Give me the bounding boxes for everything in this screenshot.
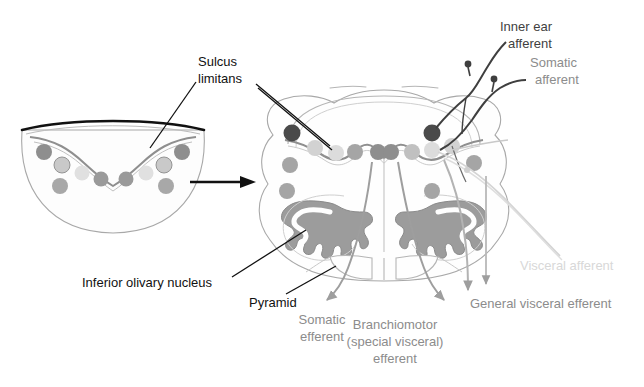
label-branchiomotor-line3: efferent [373,351,417,366]
label-inferior-olivary-nucleus: Inferior olivary nucleus [82,275,213,290]
figure-root: Sulcus limitans Inner ear afferent Somat… [0,0,644,387]
dot-ring-right [156,157,172,173]
label-inner-ear-afferent-line2: afferent [508,36,552,51]
dot-ring-left [54,157,70,173]
label-pyramid: Pyramid [249,295,297,310]
dot-dark-outer-left [36,144,52,160]
inner-ear-ganglion-cell [465,61,472,68]
dot-visceral-aff-right [424,142,440,158]
brainstem-diagram: Sulcus limitans Inner ear afferent Somat… [0,0,644,387]
label-somatic-efferent-line1: Somatic [299,312,346,327]
label-somatic-afferent-line1: Somatic [530,55,577,70]
label-visceral-afferent: Visceral afferent [520,258,614,273]
dot-mid-right-low [158,178,174,194]
dot-gve-right [404,144,420,160]
dot-somatic-aff-left [307,140,323,156]
somatic-afferent-ganglion-cell [491,76,498,83]
label-general-visceral-efferent: General visceral efferent [470,296,612,311]
visceral-afferent-ganglion-cell [464,167,470,173]
dot-somatic-eff-right [424,183,440,199]
label-somatic-efferent-line2: efferent [300,329,344,344]
label-sulcus-limitans-line1: Sulcus [198,54,238,69]
dot-somatic-eff-left [279,183,295,199]
label-branchiomotor-line2: (special visceral) [347,334,444,349]
label-branchiomotor-line1: Branchiomotor [353,317,438,332]
dot-vlight-left [75,166,90,181]
adult-medulla-panel [259,86,509,281]
dot-dark-outer-right [174,144,190,160]
dot-lateral-left [282,157,298,173]
dot-vlight-right [139,166,154,181]
dot-branchio-right [383,144,399,160]
dot-inner-ear-left [284,125,301,142]
label-inner-ear-afferent-line1: Inner ear [500,19,553,34]
dot-mid-left-low [52,178,68,194]
dot-mid-left-inner [94,172,109,187]
label-sulcus-limitans-line2: limitans [198,71,243,86]
dot-gve-left [347,144,363,160]
dot-visceral-aff-left [328,145,344,161]
label-somatic-afferent-line2: afferent [535,72,579,87]
dot-mid-right-inner [119,172,134,187]
